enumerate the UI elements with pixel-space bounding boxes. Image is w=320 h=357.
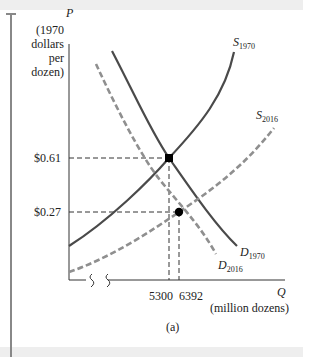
label-d2016-sub: 2016 xyxy=(227,265,243,274)
label-s1970-sub: 1970 xyxy=(239,42,255,51)
y-units-line-3: per xyxy=(20,51,64,65)
y-tick-0.27: $0.27 xyxy=(34,206,61,219)
label-s2016: S2016 xyxy=(256,109,278,126)
label-d1970-sub: 1970 xyxy=(249,252,265,261)
x-axis-label: Q xyxy=(277,285,286,300)
y-units-line-4: dozen) xyxy=(20,65,64,79)
x-axis-units: (million dozens) xyxy=(210,302,289,315)
curve-d2016 xyxy=(96,64,216,254)
label-d1970-letter: D xyxy=(240,245,249,259)
y-units-line-1: (1970 xyxy=(20,23,64,37)
y-units-line-2: dollars xyxy=(20,37,64,51)
axis-break-mark-left xyxy=(90,274,94,287)
y-axis-units: (1970 dollars per dozen) xyxy=(20,23,64,79)
equilibrium-point-2016 xyxy=(175,208,183,216)
label-s2016-sub: 2016 xyxy=(262,115,278,124)
curve-d1970 xyxy=(112,51,237,246)
label-d2016-letter: D xyxy=(218,258,227,272)
label-s1970: S1970 xyxy=(233,36,255,53)
label-d1970: D1970 xyxy=(240,246,265,263)
label-d2016: D2016 xyxy=(218,259,243,276)
x-tick-6392: 6392 xyxy=(179,290,203,303)
y-axis-label: P xyxy=(66,6,73,21)
axis-break-mark-right xyxy=(106,274,110,287)
x-tick-5300: 5300 xyxy=(149,290,173,303)
panel-label: (a) xyxy=(166,321,179,334)
y-tick-0.61: $0.61 xyxy=(34,152,61,165)
equilibrium-point-1970 xyxy=(165,154,173,162)
curve-s1970 xyxy=(69,52,234,246)
